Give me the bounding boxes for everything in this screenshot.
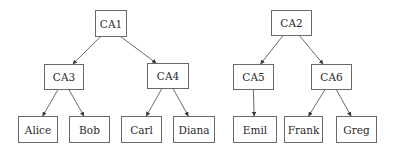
node-label: Greg — [343, 124, 370, 136]
node-ca4: CA4 — [148, 64, 189, 89]
node-label: CA1 — [100, 18, 122, 30]
edge-ca1-to-ca3 — [73, 36, 101, 64]
ca-hierarchy-diagram: CA1CA2CA3CA4CA5CA6AliceBobCarlDianaEmilF… — [0, 0, 393, 150]
node-emil: Emil — [234, 117, 277, 143]
edge-ca2-to-ca6 — [299, 35, 323, 64]
node-label: CA5 — [242, 71, 264, 83]
node-diana: Diana — [174, 117, 215, 143]
nodes: CA1CA2CA3CA4CA5CA6AliceBobCarlDianaEmilF… — [19, 11, 377, 143]
node-label: CA2 — [280, 17, 302, 29]
node-ca6: CA6 — [312, 65, 352, 90]
node-label: Bob — [79, 124, 100, 136]
edge-ca5-to-emil — [253, 89, 254, 116]
node-label: Alice — [24, 124, 51, 136]
node-carl: Carl — [122, 117, 162, 143]
node-ca5: CA5 — [234, 65, 274, 90]
edge-ca4-to-diana — [173, 88, 189, 116]
edge-ca1-to-ca4 — [120, 36, 156, 63]
edge-ca3-to-alice — [43, 89, 59, 116]
node-label: CA3 — [53, 71, 75, 83]
edge-ca4-to-carl — [146, 88, 162, 116]
node-ca2: CA2 — [272, 11, 312, 36]
edge-ca2-to-ca5 — [261, 35, 284, 64]
node-label: Carl — [130, 124, 153, 136]
node-ca3: CA3 — [45, 65, 84, 90]
node-label: Frank — [288, 124, 320, 136]
node-label: Diana — [178, 124, 209, 136]
node-frank: Frank — [285, 117, 323, 143]
node-label: Emil — [243, 124, 268, 136]
edge-ca6-to-frank — [309, 89, 326, 116]
node-bob: Bob — [70, 117, 110, 143]
edge-ca3-to-bob — [69, 89, 84, 116]
node-label: CA4 — [157, 70, 180, 82]
node-greg: Greg — [337, 117, 377, 143]
node-ca1: CA1 — [96, 11, 127, 37]
edges — [43, 35, 351, 116]
node-label: CA6 — [320, 71, 343, 83]
edge-ca6-to-greg — [336, 89, 351, 116]
node-alice: Alice — [19, 117, 58, 143]
